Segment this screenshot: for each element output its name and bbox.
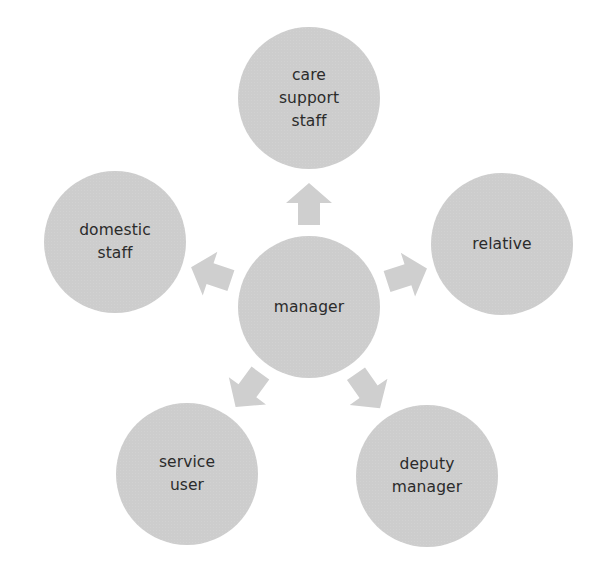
node-manager: manager xyxy=(238,236,380,378)
node-relative: relative xyxy=(431,173,573,315)
hub-diagram: manager care support staff relative depu… xyxy=(0,0,603,562)
node-label: manager xyxy=(274,296,344,319)
node-domestic-staff: domestic staff xyxy=(44,171,186,313)
node-label: domestic staff xyxy=(79,219,151,265)
node-service-user: service user xyxy=(116,403,258,545)
node-label: relative xyxy=(472,233,531,256)
node-deputy-manager: deputy manager xyxy=(356,405,498,547)
node-label: care support staff xyxy=(279,64,339,133)
node-label: deputy manager xyxy=(392,453,462,499)
node-label: service user xyxy=(159,451,215,497)
node-care-support-staff: care support staff xyxy=(238,27,380,169)
